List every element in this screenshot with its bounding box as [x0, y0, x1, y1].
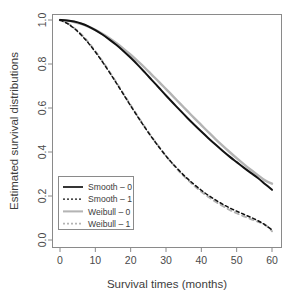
legend-label: Weibull – 0	[88, 207, 131, 217]
x-tick-label: 40	[195, 254, 207, 266]
x-axis-title: Survival times (months)	[107, 278, 227, 290]
y-tick-label: 1.0	[36, 13, 48, 28]
y-tick-label: 0.0	[36, 233, 48, 248]
x-tick-label: 0	[57, 254, 63, 266]
legend-label: Smooth – 1	[88, 194, 132, 204]
chart-canvas: 0102030405060 0.00.20.40.60.81.0 Surviva…	[0, 0, 296, 303]
x-tick-label: 50	[231, 254, 243, 266]
y-tick-label: 0.4	[36, 145, 48, 160]
legend-label: Smooth – 0	[88, 182, 132, 192]
survival-curve-figure: 0102030405060 0.00.20.40.60.81.0 Surviva…	[0, 0, 296, 303]
y-tick-label: 0.8	[36, 57, 48, 72]
y-tick-label: 0.2	[36, 189, 48, 204]
y-axis-title: Estimated survival distributions	[8, 52, 20, 210]
y-tick-label: 0.6	[36, 101, 48, 116]
x-tick-label: 20	[125, 254, 137, 266]
legend-label: Weibull – 1	[88, 219, 131, 229]
x-tick-label: 10	[89, 254, 101, 266]
x-tick-label: 60	[266, 254, 278, 266]
chart-legend: Smooth – 0Smooth – 1Weibull – 0Weibull –…	[59, 177, 134, 230]
x-tick-label: 30	[160, 254, 172, 266]
